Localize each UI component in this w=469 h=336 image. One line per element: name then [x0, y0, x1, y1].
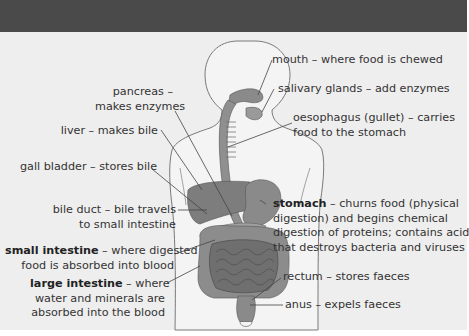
label-bile-duct: bile duct – bile travels to small intest…	[40, 203, 176, 232]
label-stomach: stomach – churns food (physical digestio…	[273, 197, 469, 255]
label-pancreas: pancreas – makes enzymes	[95, 85, 173, 114]
label-salivary-glands: salivary glands – add enzymes	[278, 82, 450, 97]
label-mouth: mouth – where food is chewed	[272, 53, 443, 68]
label-oesophagus: oesophagus (gullet) – carries food to th…	[293, 111, 455, 140]
label-large-intestine: large intestine – where water and minera…	[30, 277, 165, 321]
label-liver: liver – makes bile	[40, 124, 158, 139]
label-small-intestine: small intestine – where digested food is…	[5, 244, 174, 273]
label-anus: anus – expels faeces	[285, 298, 401, 313]
label-gall-bladder: gall bladder – stores bile	[20, 160, 153, 175]
small-intestine-shape	[209, 240, 278, 293]
label-rectum: rectum – stores faeces	[283, 270, 410, 285]
